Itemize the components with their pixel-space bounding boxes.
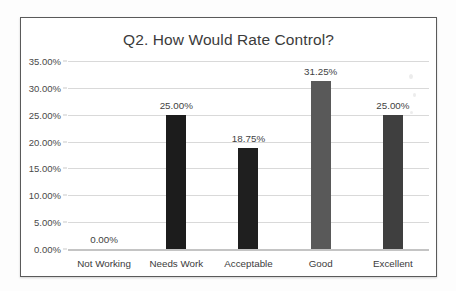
x-axis-category-label: Good: [309, 258, 333, 269]
scan-artifact: [413, 93, 416, 97]
y-axis-tick-mark: [63, 249, 67, 250]
y-axis-tick-mark: [63, 61, 67, 62]
x-axis-category-label: Needs Work: [149, 258, 203, 269]
y-axis-tick-mark: [63, 114, 67, 115]
chart-frame: Q2. How Would Rate Control? 0.00%5.00%10…: [20, 17, 437, 277]
gridline: [68, 249, 429, 251]
y-axis-tick-mark: [63, 168, 67, 169]
y-axis-tick-label: 5.00%: [34, 217, 61, 228]
x-axis-category-label: Excellent: [373, 258, 413, 269]
plot-area: 0.00%5.00%10.00%15.00%20.00%25.00%30.00%…: [68, 61, 429, 249]
y-axis-tick-label: 20.00%: [29, 136, 61, 147]
y-axis-tick-label: 10.00%: [29, 190, 61, 201]
y-axis-tick-mark: [63, 195, 67, 196]
y-axis-tick-mark: [63, 87, 67, 88]
y-axis-tick-label: 35.00%: [29, 56, 61, 67]
chart-title: Q2. How Would Rate Control?: [21, 31, 436, 49]
y-axis-tick-label: 30.00%: [29, 82, 61, 93]
y-axis-tick-mark: [63, 222, 67, 223]
scan-artifact: [410, 111, 413, 114]
y-axis-tick-label: 15.00%: [29, 163, 61, 174]
screenshot-page: Q2. How Would Rate Control? 0.00%5.00%10…: [0, 0, 456, 291]
x-axis-category-label: Not Working: [77, 258, 131, 269]
y-axis-tick-label: 0.00%: [34, 244, 61, 255]
x-axis-label-slot: Excellent: [68, 61, 429, 249]
x-axis-category-label: Acceptable: [224, 258, 272, 269]
y-axis-tick-mark: [63, 141, 67, 142]
y-axis-tick-label: 25.00%: [29, 109, 61, 120]
scan-artifact: [409, 74, 413, 79]
